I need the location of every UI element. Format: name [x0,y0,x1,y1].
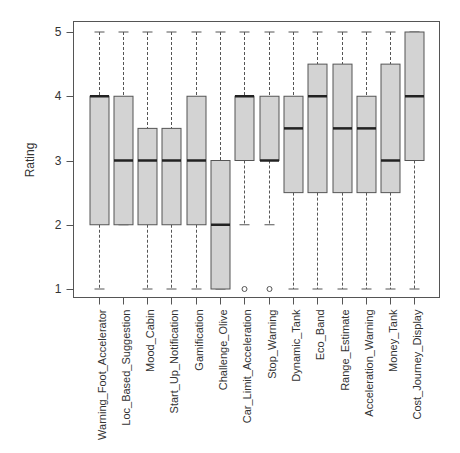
x-tick-label: Warning_Foot_Accelerator [96,309,108,440]
y-tick-label: 2 [55,218,62,232]
box-cost-journey-display [405,32,424,289]
box-challenge-olive [211,32,230,289]
x-tick-label: Gamification [193,310,205,371]
box-start-up-notification [162,32,181,289]
box-car-limit-acceleration [235,32,254,292]
iqr-box [138,128,157,224]
iqr-box [308,64,327,193]
box-eco-band [308,32,327,289]
x-tick-label: Mood_Cabin [144,310,156,372]
box-money-tank [381,32,400,289]
box-dynamic-tank [284,32,303,289]
x-tick-label: Cost_Journey_Display [411,309,423,420]
iqr-box [284,96,303,192]
x-tick-label: Start_Up_Notification [168,310,180,414]
iqr-box [260,96,279,160]
y-axis: 12345 [55,25,74,296]
x-tick-label: Loc_Based_Suggestion [120,310,132,426]
x-tick-label: Challenge_Olive [217,310,229,391]
iqr-box [162,128,181,224]
y-tick-label: 3 [55,154,62,168]
box-acceleration-warning [357,32,376,289]
iqr-box [357,96,376,192]
x-tick-label: Money_Tank [387,309,399,372]
box-gamification [187,32,206,289]
box-warning-foot-accelerator [90,32,109,289]
box-loc-based-suggestion [114,32,133,225]
x-tick-label: Stop_Warning [266,310,278,379]
outlier-point [267,287,272,292]
x-tick-label: Dynamic_Tank [290,309,302,382]
boxes [90,32,424,292]
box-stop-warning [260,32,279,292]
x-tick-label: Range_Estimate [339,310,351,391]
box-range-estimate [333,32,352,289]
x-tick-label: Car_Limit_Acceleration [241,310,253,424]
y-tick-label: 1 [55,282,62,296]
iqr-box [381,64,400,193]
x-tick-label: Acceleration_Warning [363,310,375,417]
y-tick-label: 4 [55,89,62,103]
x-axis: Warning_Foot_AcceleratorLoc_Based_Sugges… [96,298,423,440]
x-tick-label: Eco_Band [314,310,326,361]
outlier-point [242,287,247,292]
iqr-box [235,96,254,160]
boxplot-chart: 12345 Rating Warning_Foot_AcceleratorLoc… [0,0,460,453]
y-tick-label: 5 [55,25,62,39]
y-axis-label: Rating [23,143,37,178]
box-mood-cabin [138,32,157,289]
iqr-box [90,96,109,225]
